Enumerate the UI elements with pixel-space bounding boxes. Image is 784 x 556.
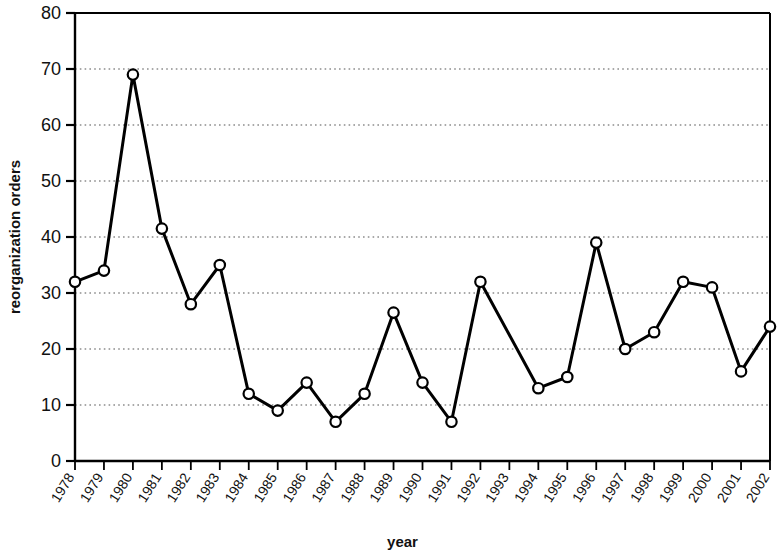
data-point-marker [244, 389, 254, 399]
y-tick-label: 30 [41, 283, 61, 303]
data-point-marker [301, 377, 311, 387]
data-point-marker [475, 277, 485, 287]
chart-container: 01020304050607080 1978197919801981198219… [0, 0, 784, 556]
data-point-marker [99, 265, 109, 275]
data-point-marker [128, 69, 138, 79]
y-axis-label: reorganization orders [6, 160, 23, 314]
data-point-marker [157, 223, 167, 233]
y-tick-label: 60 [41, 115, 61, 135]
data-point-marker [562, 372, 572, 382]
line-chart: 01020304050607080 1978197919801981198219… [0, 0, 784, 556]
data-point-marker [765, 321, 775, 331]
data-point-marker [736, 366, 746, 376]
y-tick-label: 20 [41, 339, 61, 359]
data-point-marker [359, 389, 369, 399]
data-point-marker [591, 237, 601, 247]
data-point-marker [446, 417, 456, 427]
data-point-marker [215, 260, 225, 270]
data-point-marker [533, 383, 543, 393]
data-point-marker [186, 299, 196, 309]
data-point-marker [649, 327, 659, 337]
y-tick-label: 10 [41, 395, 61, 415]
data-point-marker [707, 282, 717, 292]
chart-background [0, 0, 784, 556]
y-tick-label: 80 [41, 3, 61, 23]
y-tick-label: 70 [41, 59, 61, 79]
data-point-marker [273, 405, 283, 415]
data-point-marker [620, 344, 630, 354]
y-tick-label: 50 [41, 171, 61, 191]
x-axis-label: year [387, 533, 418, 550]
y-tick-label: 40 [41, 227, 61, 247]
data-point-marker [330, 417, 340, 427]
data-point-marker [388, 307, 398, 317]
y-tick-label: 0 [51, 451, 61, 471]
data-point-marker [417, 377, 427, 387]
data-point-marker [70, 277, 80, 287]
data-point-marker [678, 277, 688, 287]
